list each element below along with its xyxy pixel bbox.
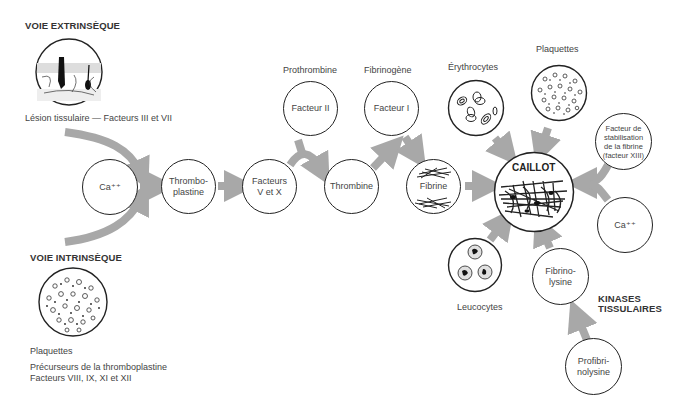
node-facteur-ii: Facteur II (283, 81, 338, 136)
arrow-facteur-ii-stem (298, 140, 303, 156)
leucocytes-illustration (447, 237, 503, 293)
arrow-xiii-caillot (585, 165, 608, 183)
platelets-illustration-left (37, 266, 109, 338)
label-plaquettes: Plaquettes (536, 44, 579, 54)
arrow-profibrinolysine-fibrinolysine (578, 318, 587, 340)
node-fibrinolysine: Fibrino- lysine (532, 248, 589, 305)
erythrocytes-illustration (447, 79, 505, 137)
arrow-fibrinolysine-caillot (543, 232, 550, 248)
node-thrombine: Thrombine (324, 159, 379, 214)
label-fibrinogene: Fibrinogène (364, 65, 412, 75)
node-facteur-i: Facteur I (364, 81, 419, 136)
arrow-ca2-stem (590, 184, 608, 200)
node-profibrinolysine: Profibri- nolysine (565, 338, 622, 395)
node-thromboplastine: Thrombo- plastine (161, 159, 216, 214)
label-leucocytes: Leucocytes (457, 302, 503, 312)
node-facteur-xiii: Facteur de stabilisation de la fibrine (… (595, 113, 652, 170)
intrinsic-caption-precursors: Précurseurs de la thromboplastine (30, 362, 167, 372)
node-ca-2: Ca⁺⁺ (597, 197, 653, 253)
intrinsic-caption-factors: Facteurs VIII, IX, XI et XII (30, 373, 132, 383)
arrow-erythrocytes-caillot (495, 138, 505, 150)
caillot-title: CAILLOT (512, 162, 555, 173)
arrow-plaquettes-caillot (542, 128, 548, 146)
kinases-label-line2: TISSULAIRES (598, 303, 662, 314)
node-facteurs-v-x: Facteurs V et X (242, 159, 297, 214)
label-prothrombine: Prothrombine (283, 65, 337, 75)
node-ca-1: Ca⁺⁺ (82, 159, 138, 215)
intrinsic-title: VOIE INTRINSÈQUE (30, 252, 122, 263)
arrow-thrombine-facteur-i (373, 150, 390, 168)
intrinsic-caption-platelets: Plaquettes (30, 346, 73, 356)
arrow-facteur-ii-thrombine (290, 154, 320, 168)
extrinsic-caption: Lésion tissulaire — Facteurs III et VII (25, 113, 172, 123)
arrow-facteur-i-fibrine (405, 137, 415, 152)
tissue-lesion-illustration (34, 37, 104, 107)
platelets-illustration-right (530, 64, 588, 122)
extrinsic-title: VOIE EXTRINSÈQUE (25, 20, 120, 31)
node-fibrine: Fibrine (406, 159, 461, 214)
label-erythrocytes: Érythrocytes (448, 62, 498, 72)
